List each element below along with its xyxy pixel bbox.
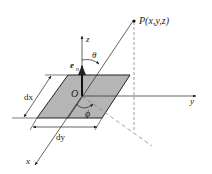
normal-vector-label: e — [70, 60, 74, 70]
y-axis-label: y — [189, 96, 194, 106]
z-axis-label: z — [85, 34, 90, 44]
dy-extension-right — [95, 118, 102, 130]
point-p-marker — [132, 19, 135, 22]
theta-arc — [82, 60, 99, 65]
theta-label: θ — [92, 50, 97, 60]
origin-label: O — [71, 88, 78, 99]
diagram-canvas: P(x,y,z) z y x O e n θ ϕ dx dy — [0, 0, 212, 174]
diagram-svg: P(x,y,z) z y x O e n θ ϕ dx dy — [0, 0, 212, 174]
normal-vector-subscript: n — [76, 66, 79, 72]
dy-label: dy — [56, 132, 66, 142]
dy-extension-left — [30, 118, 37, 130]
surface-element — [37, 75, 130, 118]
phi-label: ϕ — [85, 108, 90, 119]
point-p-label: P(x,y,z) — [138, 15, 170, 27]
dx-label: dx — [24, 92, 34, 102]
x-axis-label: x — [25, 156, 30, 166]
